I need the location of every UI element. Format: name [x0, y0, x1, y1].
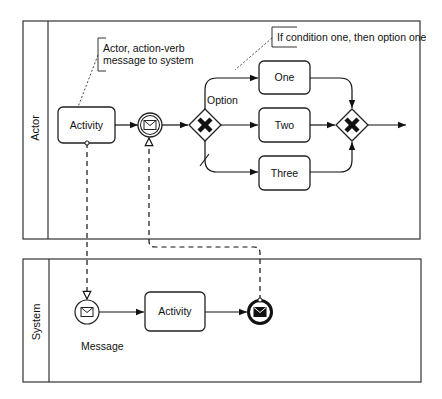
annotation-condition-text: If condition one, then option one [277, 31, 427, 43]
envelope-icon [144, 121, 156, 130]
pool-label-actor: Actor [29, 115, 41, 141]
start-event-label: Message [81, 340, 124, 352]
annotation-line-1: Actor, action-verb [103, 42, 185, 54]
task-label: Activity [70, 119, 104, 131]
bpmn-diagram: Actor System Actor, action-verb message … [0, 0, 442, 399]
task-label: Three [271, 167, 299, 179]
pool-label-system: System [30, 304, 42, 341]
task-system-activity[interactable]: Activity [145, 292, 205, 331]
task-label: Two [275, 119, 294, 131]
envelope-icon [81, 308, 93, 317]
annotation-line-2: message to system [103, 54, 194, 66]
task-label: Activity [158, 305, 192, 317]
gateway-label: Option [207, 94, 238, 106]
task-option-one[interactable]: One [259, 61, 310, 94]
task-label: One [275, 71, 295, 83]
task-actor-activity[interactable]: Activity [58, 107, 115, 143]
task-option-three[interactable]: Three [259, 156, 310, 190]
message-end-event[interactable] [249, 301, 272, 324]
intermediate-message-event[interactable] [138, 113, 162, 137]
task-option-two[interactable]: Two [259, 108, 310, 142]
envelope-filled-icon [254, 308, 266, 317]
